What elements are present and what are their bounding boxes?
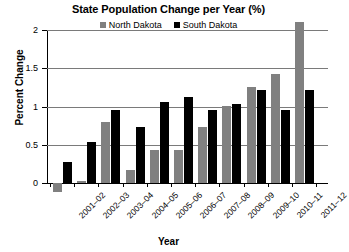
x-tick-mark [219, 183, 220, 187]
x-tick-mark [147, 183, 148, 187]
y-tick-label: 0 [10, 179, 38, 188]
bar-south-dakota [305, 90, 314, 183]
x-tick-mark [74, 183, 75, 187]
bar-north-dakota [150, 150, 159, 183]
bar-group [77, 24, 97, 183]
chart-title: State Population Change per Year (%) [0, 3, 337, 15]
bar-north-dakota [295, 22, 304, 183]
x-axis-baseline [47, 183, 328, 184]
bar-south-dakota [63, 162, 72, 183]
bar-south-dakota [136, 127, 145, 183]
bar-south-dakota [111, 110, 120, 183]
x-tick-label: 2009–10 [270, 190, 300, 220]
x-tick-mark [244, 183, 245, 187]
bar-north-dakota [174, 150, 183, 183]
x-tick-mark [195, 183, 196, 187]
x-axis-title: Year [0, 236, 337, 247]
bar-north-dakota [126, 170, 135, 183]
y-tick-label: 2 [10, 26, 38, 35]
y-axis-title: Percent Change [14, 28, 25, 148]
bar-south-dakota [257, 90, 266, 183]
bar-group [126, 24, 146, 183]
x-tick-mark [171, 183, 172, 187]
bar-group [174, 24, 194, 183]
bar-group [101, 24, 121, 183]
bar-north-dakota [77, 181, 86, 183]
bar-north-dakota [198, 127, 207, 183]
bar-north-dakota [247, 87, 256, 183]
y-tick-label: 0.5 [10, 141, 38, 150]
x-tick-mark [123, 183, 124, 187]
bar-south-dakota [184, 97, 193, 183]
bar-group [222, 24, 242, 183]
bar-south-dakota [160, 102, 169, 183]
bar-south-dakota [281, 110, 290, 183]
plot-area [47, 24, 328, 183]
x-tick-mark [98, 183, 99, 187]
x-tick-mark [50, 183, 51, 187]
bar-north-dakota [222, 106, 231, 183]
y-tick-label: 1 [10, 103, 38, 112]
bar-north-dakota [271, 74, 280, 183]
bar-north-dakota [101, 122, 110, 183]
x-tick-mark [316, 183, 317, 187]
bar-group [198, 24, 218, 183]
bar-north-dakota [53, 183, 62, 192]
bar-group [53, 24, 73, 183]
x-tick-label: 2011–12 [319, 190, 349, 220]
bar-south-dakota [232, 104, 241, 183]
bar-south-dakota [208, 110, 217, 183]
x-tick-mark [268, 183, 269, 187]
bar-south-dakota [87, 142, 96, 183]
bar-group [150, 24, 170, 183]
x-tick-mark [292, 183, 293, 187]
bar-group [247, 24, 267, 183]
y-tick-label: 1.5 [10, 64, 38, 73]
bar-group [271, 24, 291, 183]
bar-group [295, 24, 315, 183]
